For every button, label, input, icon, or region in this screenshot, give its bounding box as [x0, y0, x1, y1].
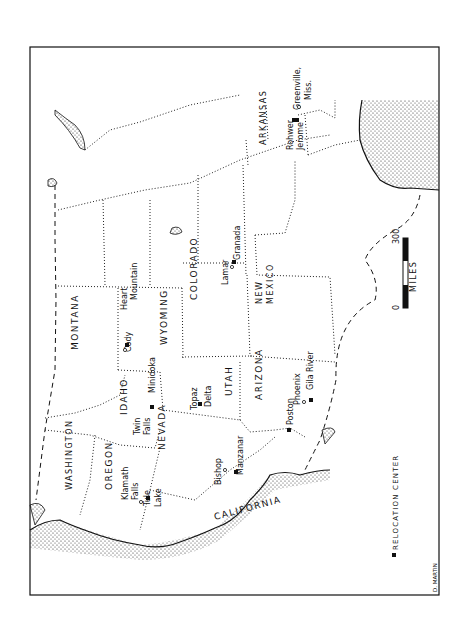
pacific-coast — [30, 470, 330, 560]
relocation-center-icon — [125, 343, 129, 347]
state-label: WYOMING — [159, 289, 169, 345]
state-label: NEVADA — [157, 404, 167, 450]
place-label: Bishop — [214, 458, 223, 485]
place-label: Klamath — [121, 467, 130, 500]
gulf-coast — [48, 100, 439, 444]
relocation-center-icon — [309, 398, 313, 402]
legend: RELOCATION CENTER — [392, 455, 400, 557]
place-label: Phoenix — [293, 373, 302, 405]
state-label: COLORADO — [189, 237, 199, 300]
state-label: ARKANSAS — [259, 90, 268, 145]
relocation-center-icon — [287, 428, 291, 432]
international-borders — [36, 185, 420, 500]
state-label: IDAHO — [119, 378, 129, 415]
place-label: Manzanar — [236, 435, 245, 475]
town-icon — [297, 105, 300, 108]
state-label: MEXICO — [266, 263, 275, 304]
town-icon — [230, 265, 233, 268]
place-label: Mountain — [130, 263, 139, 300]
place-label: Falls — [131, 483, 140, 500]
place-label: Falls — [143, 418, 152, 435]
place-label: Topaz — [190, 387, 199, 411]
place-label: Twin — [133, 418, 142, 436]
state-label: OREGON — [104, 441, 114, 490]
scale-unit: MILES — [409, 261, 418, 292]
town-icon — [223, 468, 226, 471]
scale-bar: 0 300 MILES — [392, 229, 418, 310]
state-label: WASHINGTON — [65, 420, 74, 490]
town-markers — [123, 105, 305, 503]
town-icon — [123, 348, 126, 351]
state-label: UTAH — [224, 366, 234, 396]
scale-max: 300 — [392, 229, 401, 244]
state-borders — [45, 95, 360, 530]
state-labels: WASHINGTONOREGONCALIFORNIANEVADAIDAHOMON… — [65, 90, 282, 522]
relocation-center-icon — [150, 405, 154, 409]
state-label: ARIZONA — [254, 348, 264, 400]
relocation-center-icon — [146, 496, 150, 500]
legend-label: RELOCATION CENTER — [392, 455, 400, 550]
place-label: Lake — [154, 488, 163, 507]
place-label: Delta — [204, 386, 213, 407]
relocation-center-icon — [232, 260, 236, 264]
place-label: Miss. — [304, 80, 313, 100]
place-label: Heart — [120, 288, 129, 310]
relocation-center-markers — [125, 118, 313, 500]
relocation-map: WASHINGTONOREGONCALIFORNIANEVADAIDAHOMON… — [0, 0, 467, 639]
place-label: Granada — [233, 226, 242, 260]
place-label: Greenville, — [293, 67, 302, 110]
place-label: Jerome — [296, 122, 305, 151]
state-label: CALIFORNIA — [213, 494, 282, 522]
place-labels: CodyHeartMountainMinidokaTwinFallsTopazD… — [120, 67, 315, 507]
place-label: Minidoka — [148, 357, 157, 393]
legend-square-icon — [392, 553, 396, 557]
town-icon — [302, 400, 305, 403]
town-icon — [139, 500, 142, 503]
state-label: NEW — [255, 281, 264, 304]
place-label: Rohwer — [286, 119, 295, 150]
scale-zero: 0 — [392, 305, 401, 310]
place-label: Gila River — [306, 350, 315, 390]
map-credit: D. MARTIN — [432, 563, 438, 592]
state-label: MONTANA — [70, 294, 80, 350]
relocation-center-icon — [295, 118, 299, 122]
relocation-center-icon — [198, 402, 202, 406]
place-label: Lamar — [221, 259, 230, 285]
relocation-center-icon — [234, 470, 238, 474]
